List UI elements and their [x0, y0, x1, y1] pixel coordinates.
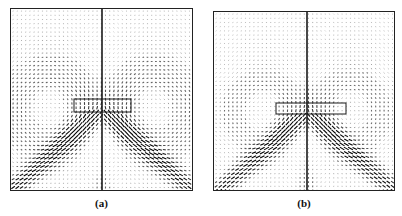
panel-label-a: (a) — [95, 197, 108, 209]
vector-field-panel-a — [10, 8, 193, 191]
panel-label-b: (b) — [297, 197, 310, 209]
vector-field-plot-b — [214, 12, 395, 191]
vector-field-panel-b — [213, 11, 395, 191]
vector-field-plot-a — [11, 9, 193, 191]
